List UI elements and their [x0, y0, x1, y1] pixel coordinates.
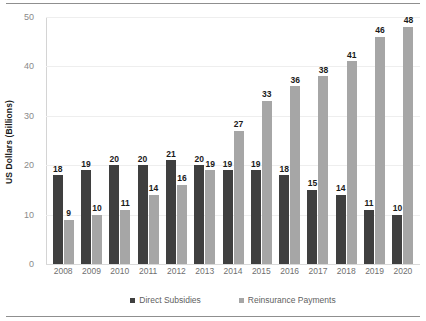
x-tick-label: 2017	[304, 266, 332, 282]
y-tick-label: 30	[8, 111, 34, 121]
bar[interactable]: 19	[223, 170, 233, 264]
bar-value-label: 10	[393, 203, 402, 213]
bar[interactable]: 27	[234, 131, 244, 264]
bar-value-label: 38	[319, 65, 328, 75]
x-tick-label: 2009	[77, 266, 105, 282]
bar-group: 2014	[134, 17, 162, 264]
bottom-divider	[6, 316, 420, 317]
x-tick-label: 2014	[219, 266, 247, 282]
bar[interactable]: 41	[347, 61, 357, 264]
x-tick-label: 2008	[49, 266, 77, 282]
y-tick-label: 50	[8, 12, 34, 22]
bar-value-label: 19	[205, 159, 214, 169]
bar-value-label: 10	[92, 203, 101, 213]
bar-value-label: 18	[53, 164, 62, 174]
bar[interactable]: 16	[177, 185, 187, 264]
bar[interactable]: 19	[81, 170, 91, 264]
bar-value-label: 46	[375, 25, 384, 35]
bar-value-label: 33	[262, 89, 271, 99]
bar-value-label: 19	[251, 159, 260, 169]
bar-value-label: 19	[81, 159, 90, 169]
bar-value-label: 27	[234, 119, 243, 129]
bar[interactable]: 11	[364, 210, 374, 264]
bar-value-label: 20	[194, 154, 203, 164]
x-tick-label: 2013	[191, 266, 219, 282]
x-tick-label: 2020	[389, 266, 417, 282]
bar-value-label: 20	[110, 154, 119, 164]
x-tick-label: 2011	[134, 266, 162, 282]
bar-chart: US Dollars (Billions) 01020304050 189191…	[0, 0, 426, 321]
bar-value-label: 36	[290, 75, 299, 85]
x-tick-label: 2010	[106, 266, 134, 282]
bar-group: 1836	[276, 17, 304, 264]
bar-group: 1910	[77, 17, 105, 264]
bar-value-label: 11	[365, 198, 374, 208]
bar-group: 1538	[304, 17, 332, 264]
legend-label: Reinsurance Payments	[248, 295, 336, 305]
bar-group: 189	[49, 17, 77, 264]
bar-group: 1933	[247, 17, 275, 264]
bar-group: 1927	[219, 17, 247, 264]
legend-swatch-icon	[130, 298, 135, 303]
bar[interactable]: 20	[194, 165, 204, 264]
bar[interactable]: 14	[336, 195, 346, 264]
bar-value-label: 9	[66, 208, 71, 218]
bar-group: 2011	[106, 17, 134, 264]
bar-value-label: 16	[177, 173, 186, 183]
bar[interactable]: 14	[149, 195, 159, 264]
bar[interactable]: 10	[392, 215, 402, 264]
bar[interactable]: 38	[318, 76, 328, 264]
x-tick-label: 2015	[247, 266, 275, 282]
bar-groups: 1891910201120142116201919271933183615381…	[46, 17, 420, 264]
bar-value-label: 21	[166, 149, 175, 159]
bar[interactable]: 48	[403, 27, 413, 264]
legend-swatch-icon	[239, 298, 244, 303]
bar[interactable]: 18	[53, 175, 63, 264]
bar-value-label: 11	[121, 198, 130, 208]
x-axis-ticks: 2008200920102011201220132014201520162017…	[46, 266, 420, 282]
y-tick-label: 0	[8, 259, 34, 269]
bar[interactable]: 36	[290, 86, 300, 264]
bar-group: 2019	[191, 17, 219, 264]
gridline	[46, 264, 420, 265]
y-tick-label: 20	[8, 160, 34, 170]
plot-area: 01020304050 1891910201120142116201919271…	[46, 17, 420, 264]
legend-label: Direct Subsidies	[139, 295, 200, 305]
bar[interactable]: 9	[64, 220, 74, 264]
chart-legend: Direct SubsidiesReinsurance Payments	[46, 292, 420, 308]
bar-value-label: 19	[223, 159, 232, 169]
bar-value-label: 14	[336, 183, 345, 193]
bar-value-label: 41	[347, 50, 356, 60]
bar-group: 1441	[332, 17, 360, 264]
bar-group: 1146	[360, 17, 388, 264]
bar-value-label: 20	[138, 154, 147, 164]
x-tick-label: 2019	[360, 266, 388, 282]
y-axis-title: US Dollars (Billions)	[2, 7, 16, 277]
bar[interactable]: 19	[251, 170, 261, 264]
bar[interactable]: 15	[307, 190, 317, 264]
bar[interactable]: 20	[109, 165, 119, 264]
top-divider	[6, 3, 420, 4]
bar-value-label: 15	[308, 178, 317, 188]
x-tick-label: 2012	[162, 266, 190, 282]
bar-group: 2116	[162, 17, 190, 264]
legend-item[interactable]: Direct Subsidies	[130, 295, 200, 305]
bar-group: 1048	[389, 17, 417, 264]
x-tick-label: 2018	[332, 266, 360, 282]
bar[interactable]: 18	[279, 175, 289, 264]
bar[interactable]: 46	[375, 37, 385, 264]
bar[interactable]: 33	[262, 101, 272, 264]
bar[interactable]: 19	[205, 170, 215, 264]
bar-value-label: 18	[279, 164, 288, 174]
x-tick-label: 2016	[276, 266, 304, 282]
bar[interactable]: 21	[166, 160, 176, 264]
bar[interactable]: 20	[138, 165, 148, 264]
bar[interactable]: 11	[120, 210, 130, 264]
bar[interactable]: 10	[92, 215, 102, 264]
bar-value-label: 48	[404, 15, 413, 25]
y-tick-label: 40	[8, 61, 34, 71]
legend-item[interactable]: Reinsurance Payments	[239, 295, 336, 305]
y-tick-label: 10	[8, 210, 34, 220]
bar-value-label: 14	[149, 183, 158, 193]
